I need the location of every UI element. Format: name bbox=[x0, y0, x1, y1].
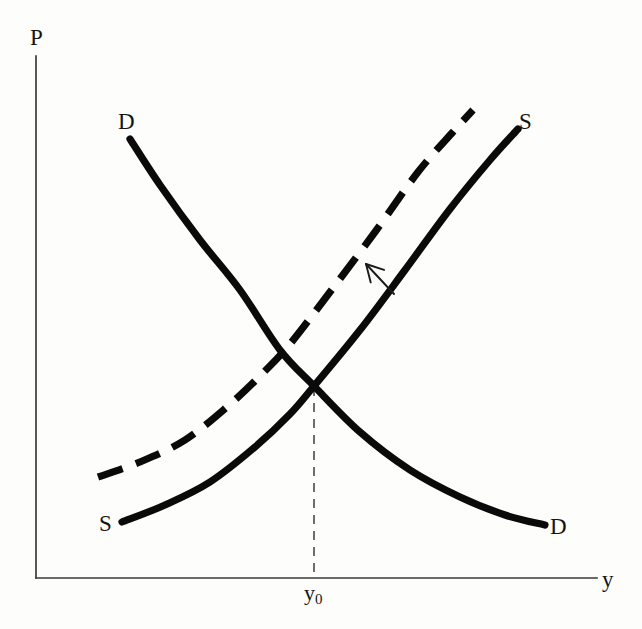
supply-demand-figure: P y D S S D y0 bbox=[0, 0, 642, 629]
supply-top-label: S bbox=[519, 110, 532, 133]
figure-canvas bbox=[0, 0, 642, 629]
y-axis-label: P bbox=[30, 26, 43, 49]
x-axis-label: y bbox=[602, 568, 614, 591]
supply-bottom-label: S bbox=[99, 512, 112, 535]
demand-curve bbox=[130, 139, 545, 525]
supply-curve bbox=[122, 129, 518, 522]
equilibrium-quantity-tick-label: y0 bbox=[304, 582, 323, 604]
shift-arrow bbox=[366, 264, 394, 294]
tick-label-subscript: 0 bbox=[315, 591, 323, 607]
tick-label-main: y bbox=[304, 580, 315, 605]
demand-top-label: D bbox=[118, 110, 135, 133]
demand-bottom-label: D bbox=[550, 515, 567, 538]
